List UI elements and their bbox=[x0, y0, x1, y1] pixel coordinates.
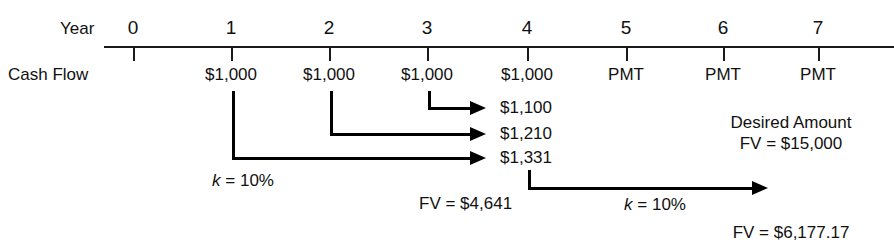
tick-mark-1 bbox=[231, 47, 233, 61]
rate-value-right: 10% bbox=[652, 195, 686, 214]
tick-mark-6 bbox=[723, 47, 725, 61]
compounded-value-1331: $1,331 bbox=[500, 149, 552, 166]
timeline-axis bbox=[104, 46, 894, 48]
arrowhead-future-value bbox=[752, 181, 768, 195]
rate-symbol-left: k bbox=[212, 171, 221, 190]
tick-mark-7 bbox=[818, 47, 820, 61]
tick-label-7: 7 bbox=[813, 18, 824, 37]
tick-label-6: 6 bbox=[718, 18, 729, 37]
cash-flow-year-1: $1,000 bbox=[205, 66, 257, 83]
arrowhead-year-1 bbox=[470, 151, 486, 165]
tick-mark-5 bbox=[626, 47, 628, 61]
tick-mark-0 bbox=[133, 47, 135, 61]
desired-amount-caption: Desired Amount bbox=[731, 114, 852, 131]
cash-flow-row-label: Cash Flow bbox=[8, 66, 88, 83]
cash-flow-year-2: $1,000 bbox=[303, 66, 355, 83]
future-value-arrow bbox=[528, 170, 768, 190]
rate-label-right: k = 10% bbox=[624, 196, 686, 213]
compounded-value-1210: $1,210 bbox=[500, 125, 552, 142]
cash-flow-year-4: $1,000 bbox=[501, 66, 553, 83]
compounding-arrow-year-1 bbox=[232, 91, 486, 160]
tick-mark-3 bbox=[427, 47, 429, 61]
fv-annuity-label: FV = $4,641 bbox=[419, 195, 512, 212]
tick-mark-4 bbox=[527, 47, 529, 61]
tick-mark-2 bbox=[329, 47, 331, 61]
tick-label-3: 3 bbox=[422, 18, 433, 37]
rate-label-left: k = 10% bbox=[212, 172, 274, 189]
timeline-diagram: Year Cash Flow 0 1 2 3 4 5 6 7 $1,000 $1… bbox=[0, 0, 894, 250]
cash-flow-year-6: PMT bbox=[705, 66, 741, 83]
cash-flow-year-7: PMT bbox=[800, 66, 836, 83]
desired-amount-value: FV = $15,000 bbox=[740, 135, 843, 152]
rate-equals-right: = bbox=[633, 195, 652, 214]
tick-label-4: 4 bbox=[522, 18, 533, 37]
cash-flow-year-3: $1,000 bbox=[401, 66, 453, 83]
cash-flow-year-5: PMT bbox=[608, 66, 644, 83]
compounded-value-1100: $1,100 bbox=[500, 99, 552, 116]
tick-label-1: 1 bbox=[226, 18, 237, 37]
year-row-label: Year bbox=[60, 20, 94, 37]
rate-equals-left: = bbox=[221, 171, 240, 190]
fv-future-label: FV = $6,177.17 bbox=[733, 224, 850, 241]
tick-label-5: 5 bbox=[621, 18, 632, 37]
rate-symbol-right: k bbox=[624, 195, 633, 214]
tick-label-0: 0 bbox=[128, 18, 139, 37]
tick-label-2: 2 bbox=[324, 18, 335, 37]
rate-value-left: 10% bbox=[240, 171, 274, 190]
